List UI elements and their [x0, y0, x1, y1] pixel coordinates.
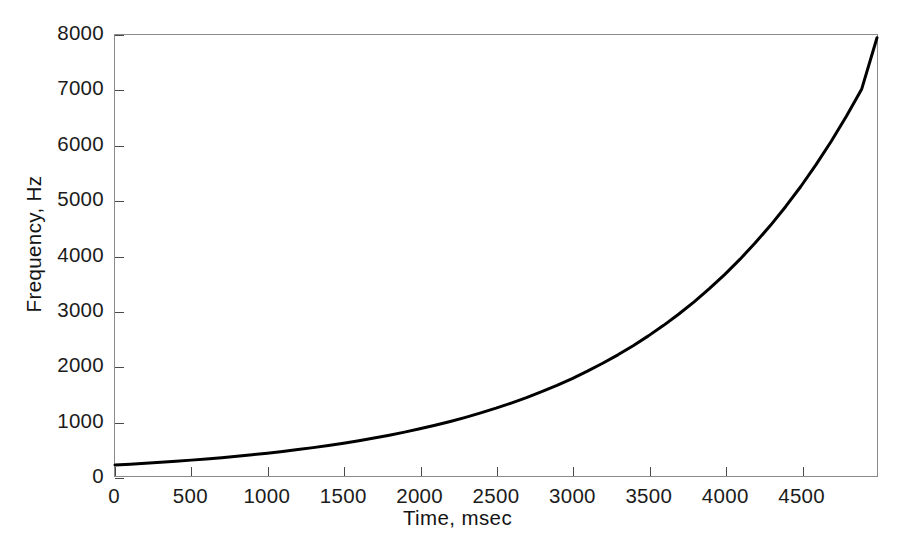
y-tick-label: 6000 — [12, 132, 104, 156]
y-tick-label: 5000 — [12, 187, 104, 211]
x-tick-label: 4500 — [742, 484, 862, 508]
y-tick-label: 7000 — [12, 76, 104, 100]
x-axis-title: Time, msec — [0, 506, 915, 530]
chart-figure: Frequency, Hz 01000200030004000500060007… — [0, 0, 915, 534]
y-tick-label: 2000 — [12, 353, 104, 377]
y-tick-label: 8000 — [12, 21, 104, 45]
plot-area — [114, 34, 878, 477]
y-tick-mark — [115, 478, 124, 479]
chirp-curve — [115, 35, 877, 476]
y-tick-label: 4000 — [12, 243, 104, 267]
y-tick-label: 1000 — [12, 409, 104, 433]
y-tick-label: 3000 — [12, 298, 104, 322]
